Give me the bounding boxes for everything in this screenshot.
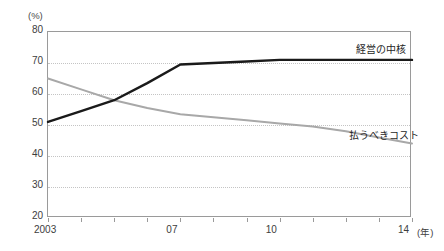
x-axis-tick: [114, 218, 115, 222]
y-axis-label: 30: [3, 179, 43, 190]
x-axis-tick: [81, 218, 82, 222]
y-axis-tick-labels: 80706050403020: [0, 31, 43, 217]
x-axis-tick: [180, 218, 181, 222]
y-axis-label: 60: [3, 86, 43, 97]
x-axis-unit-label: (年): [417, 225, 433, 239]
x-axis-tick: [213, 218, 214, 222]
plot-area: [47, 31, 411, 217]
x-axis-label: 14: [398, 224, 409, 235]
x-axis-tick: [379, 218, 380, 222]
y-axis-label: 50: [3, 117, 43, 128]
x-axis-tick: [313, 218, 314, 222]
x-axis-label: 07: [166, 224, 177, 235]
y-axis-label: 40: [3, 148, 43, 159]
x-axis-tick: [48, 218, 49, 222]
x-axis-label: 2003: [34, 224, 56, 235]
x-axis-tick: [247, 218, 248, 222]
x-axis-tick: [412, 218, 413, 222]
series-label-cost: 払うべきコスト: [349, 127, 419, 142]
series-lines: [48, 32, 412, 218]
y-axis-label: 70: [3, 55, 43, 66]
x-axis-tick: [346, 218, 347, 222]
y-axis-label: 80: [3, 24, 43, 35]
y-axis-unit-label: (%): [28, 10, 43, 21]
series-label-core: 経営の中核: [356, 41, 406, 56]
x-axis-label: 10: [266, 224, 277, 235]
line-core: [48, 60, 412, 122]
chart-figure: (%) 80706050403020 2003071014(年) 経営の中核 払…: [0, 0, 444, 251]
x-axis-tick: [280, 218, 281, 222]
x-axis-tick: [147, 218, 148, 222]
y-axis-label: 20: [3, 210, 43, 221]
